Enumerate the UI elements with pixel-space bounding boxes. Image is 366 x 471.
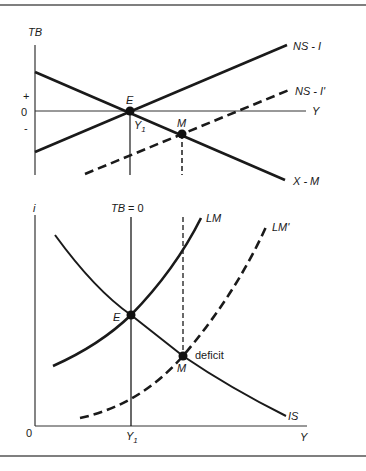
deficit-label: deficit [195, 349, 224, 361]
is-curve [55, 235, 286, 416]
lm-curve [53, 218, 201, 366]
tick-zero: 0 [21, 106, 27, 118]
bottom-panel: i TB = 0 LM LM' E M deficit IS 0 Y1 Y [26, 202, 308, 445]
y-axis-label-bottom: Y [300, 431, 308, 443]
point-e-label-top: E [126, 94, 134, 106]
origin-label: 0 [26, 427, 32, 439]
ns-i-curve [35, 45, 287, 152]
tick-minus: - [24, 122, 28, 134]
top-panel: TB + 0 - Y E M Y1 NS - I NS - I' X - M [21, 26, 326, 187]
lm-prime-label: LM' [272, 221, 290, 233]
point-m-top [178, 130, 187, 139]
point-m-label-top: M [177, 117, 187, 129]
point-e-label-bottom: E [113, 311, 121, 323]
tb-axis-label: TB [28, 26, 42, 38]
ns-i-prime-curve [85, 90, 289, 174]
y-axis-label-top: Y [312, 105, 320, 117]
tick-plus: + [23, 90, 29, 102]
y1-label-top: Y1 [134, 119, 146, 134]
point-e-top [126, 107, 135, 116]
tb-zero-label: TB = 0 [111, 202, 144, 214]
is-label: IS [288, 410, 299, 422]
x-m-curve [35, 72, 285, 180]
point-m-label-bottom: M [177, 362, 187, 374]
diagram-canvas: TB + 0 - Y E M Y1 NS - I NS - I' X - M i… [0, 0, 366, 471]
ns-i-label: NS - I [293, 40, 321, 52]
i-axis-label: i [33, 202, 36, 214]
x-m-label: X - M [292, 175, 320, 187]
y1-label-bottom: Y1 [126, 430, 138, 445]
lm-label: LM [206, 212, 222, 224]
point-e-bottom [127, 311, 136, 320]
point-m-bottom [179, 352, 188, 361]
ns-i-prime-label: NS - I' [295, 85, 326, 97]
